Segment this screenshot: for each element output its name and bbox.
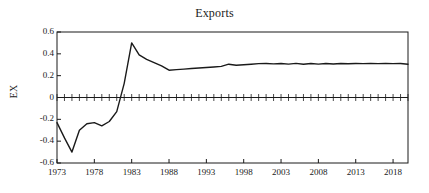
x-tick-label: 2013 [336,168,376,177]
x-tick-label: 2018 [373,168,413,177]
x-axis-tick-marks [57,159,393,163]
x-tick-label: 1978 [74,168,114,177]
x-tick-label: 1988 [149,168,189,177]
y-axis-tick-marks [57,32,61,163]
plot-area [0,0,429,193]
x-tick-label: 1993 [186,168,226,177]
x-tick-label: 1973 [37,168,77,177]
exports-chart-figure: Exports EX 0.60.40.20-0.2-0.4-0.6 197319… [0,0,429,193]
x-tick-label: 2008 [298,168,338,177]
x-tick-label: 1983 [112,168,152,177]
x-tick-label: 1998 [224,168,264,177]
x-tick-label: 2003 [261,168,301,177]
